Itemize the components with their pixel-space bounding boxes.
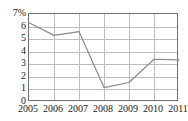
x-axis: 2005200620072008200920102011: [0, 103, 188, 119]
y-axis-label-7pct: 7%: [0, 8, 26, 18]
y-axis: 01234567%: [0, 13, 26, 101]
line-chart: 01234567% 2005200620072008200920102011: [0, 0, 188, 121]
y-axis-label-6: 6: [0, 21, 26, 31]
y-axis-label-1: 1: [0, 83, 26, 93]
plot-area: [28, 13, 178, 101]
y-axis-label-2: 2: [0, 71, 26, 81]
x-axis-label-2009: 2009: [118, 103, 138, 115]
x-axis-label-2010: 2010: [143, 103, 163, 115]
y-axis-label-5: 5: [0, 33, 26, 43]
x-axis-label-2005: 2005: [18, 103, 38, 115]
y-axis-label-4: 4: [0, 46, 26, 56]
x-axis-label-2011: 2011: [168, 103, 188, 115]
x-axis-label-2006: 2006: [43, 103, 63, 115]
x-axis-label-2007: 2007: [68, 103, 88, 115]
y-axis-label-3: 3: [0, 58, 26, 68]
x-axis-label-2008: 2008: [93, 103, 113, 115]
data-series-line: [29, 14, 179, 102]
